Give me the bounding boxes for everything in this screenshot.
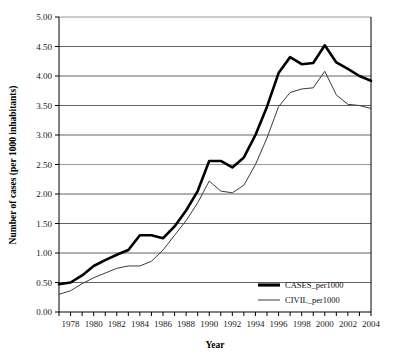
x-tick-label: 2000 — [316, 319, 335, 329]
x-tick-label: 1988 — [177, 319, 196, 329]
y-tick-label: 2.00 — [36, 189, 52, 199]
x-tick-label: 1980 — [85, 319, 104, 329]
y-tick-label: 3.50 — [36, 101, 52, 111]
x-tick-label: 1986 — [154, 319, 173, 329]
y-tick-label: 1.00 — [36, 248, 52, 258]
line-chart: 0.000.501.001.502.002.503.003.504.004.50… — [0, 0, 396, 362]
y-tick-label: 3.00 — [36, 130, 52, 140]
y-tick-label: 4.00 — [36, 71, 52, 81]
y-tick-label: 1.50 — [36, 219, 52, 229]
x-tick-label: 1996 — [270, 319, 289, 329]
x-tick-label: 1990 — [200, 319, 219, 329]
x-tick-label: 2002 — [339, 319, 357, 329]
y-tick-label: 5.00 — [36, 12, 52, 22]
y-axis-title: Number of cases (per 1000 inhabitants) — [8, 86, 19, 245]
y-tick-label: 0.50 — [36, 278, 52, 288]
x-axis-title: Year — [206, 340, 226, 350]
x-tick-label: 1984 — [131, 319, 150, 329]
legend-label: CIVIL_per1000 — [285, 295, 340, 305]
x-tick-label: 2004 — [362, 319, 381, 329]
y-tick-label: 4.50 — [36, 42, 52, 52]
x-tick-label: 1998 — [293, 319, 312, 329]
x-tick-label: 1992 — [223, 319, 241, 329]
y-tick-label: 0.00 — [36, 307, 52, 317]
x-tick-label: 1982 — [108, 319, 126, 329]
y-tick-label: 2.50 — [36, 160, 52, 170]
legend-label: CASES_per1000 — [285, 280, 344, 290]
x-tick-label: 1994 — [246, 319, 265, 329]
x-tick-label: 1978 — [62, 319, 81, 329]
chart-figure: 0.000.501.001.502.002.503.003.504.004.50… — [0, 0, 396, 362]
